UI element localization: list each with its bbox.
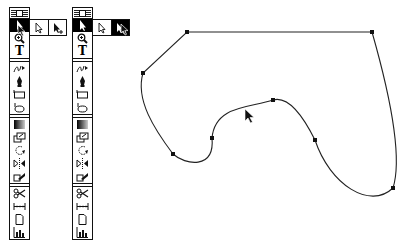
reflect-icon — [76, 158, 89, 169]
selection-flyout-left — [29, 19, 67, 36]
tool-freehand[interactable] — [10, 62, 29, 75]
tool-pen[interactable] — [10, 75, 29, 88]
flyout-direct-selection[interactable] — [30, 20, 48, 35]
rectangle-icon — [13, 89, 26, 100]
tool-rotate-object[interactable] — [10, 144, 29, 157]
tool-rotate[interactable] — [10, 101, 29, 114]
page-icon — [76, 214, 89, 225]
type-icon: T — [78, 46, 87, 57]
scale-icon — [13, 132, 26, 143]
tool-selection[interactable] — [73, 19, 92, 32]
toolbox-title-bar[interactable] — [10, 8, 29, 19]
tool-gradient[interactable] — [73, 118, 92, 131]
tool-page[interactable] — [73, 213, 92, 226]
mouse-pointer-icon — [17, 25, 27, 37]
mouse-pointer-icon — [245, 109, 254, 123]
reflect-icon — [13, 158, 26, 169]
anchor-point[interactable] — [313, 138, 317, 142]
magnifier-icon — [76, 33, 89, 44]
arrow-icon — [76, 20, 89, 31]
scissors-icon — [13, 188, 26, 199]
tool-measure[interactable] — [73, 200, 92, 213]
anchor-point[interactable] — [370, 30, 374, 34]
anchor-point[interactable] — [391, 186, 395, 190]
measure-icon — [76, 201, 89, 212]
type-icon: T — [15, 46, 24, 57]
tool-scissors[interactable] — [10, 187, 29, 200]
tool-type[interactable]: T — [10, 45, 29, 58]
rotate-object-icon — [76, 145, 89, 156]
tool-pen[interactable] — [73, 75, 92, 88]
flyout-group-selection[interactable] — [48, 20, 66, 35]
graph-icon — [13, 227, 26, 238]
gradient-icon — [13, 119, 26, 130]
tool-shear[interactable] — [10, 170, 29, 183]
tool-scale[interactable] — [73, 131, 92, 144]
anchor-point[interactable] — [141, 71, 145, 75]
tool-measure[interactable] — [10, 200, 29, 213]
tool-rotate[interactable] — [73, 101, 92, 114]
tool-page[interactable] — [10, 213, 29, 226]
tool-graph[interactable] — [73, 226, 92, 239]
anchor-point[interactable] — [185, 30, 189, 34]
freehand-icon — [76, 63, 89, 74]
measure-icon — [13, 201, 26, 212]
pen-icon — [76, 76, 89, 87]
hollow-arrow-icon — [33, 22, 45, 34]
tool-scale[interactable] — [10, 131, 29, 144]
tool-reflect[interactable] — [73, 157, 92, 170]
scale-icon — [76, 132, 89, 143]
tool-rotate-object[interactable] — [73, 144, 92, 157]
page-icon — [13, 214, 26, 225]
grip-icon — [74, 10, 91, 17]
anchor-point[interactable] — [210, 136, 214, 140]
anchor-points — [141, 30, 395, 190]
tool-shear[interactable] — [73, 170, 92, 183]
freehand-icon — [13, 63, 26, 74]
tool-graph[interactable] — [10, 226, 29, 239]
flyout-direct-selection[interactable] — [93, 20, 111, 35]
tool-scissors[interactable] — [73, 187, 92, 200]
graph-icon — [76, 227, 89, 238]
toolbox-right: T — [72, 7, 93, 240]
tool-rectangle[interactable] — [10, 88, 29, 101]
tool-freehand[interactable] — [73, 62, 92, 75]
gradient-icon — [76, 119, 89, 130]
rectangle-icon — [76, 89, 89, 100]
hollow-arrow-icon — [96, 22, 108, 34]
tool-reflect[interactable] — [10, 157, 29, 170]
bezier-path[interactable] — [141, 32, 396, 196]
grip-icon — [11, 10, 28, 17]
rotate-icon — [13, 102, 26, 113]
tool-rectangle[interactable] — [73, 88, 92, 101]
pen-icon — [13, 76, 26, 87]
shear-icon — [13, 171, 26, 182]
scissors-icon — [76, 188, 89, 199]
toolbox-left: T — [9, 7, 30, 240]
drawing-canvas[interactable] — [130, 0, 417, 243]
toolbox-title-bar[interactable] — [73, 8, 92, 19]
rotate-object-icon — [13, 145, 26, 156]
tool-gradient[interactable] — [10, 118, 29, 131]
anchor-point[interactable] — [171, 152, 175, 156]
tool-type[interactable]: T — [73, 45, 92, 58]
rotate-icon — [76, 102, 89, 113]
mouse-pointer-icon — [120, 24, 130, 36]
group-arrow-icon — [52, 22, 64, 34]
shear-icon — [76, 171, 89, 182]
anchor-point[interactable] — [271, 98, 275, 102]
